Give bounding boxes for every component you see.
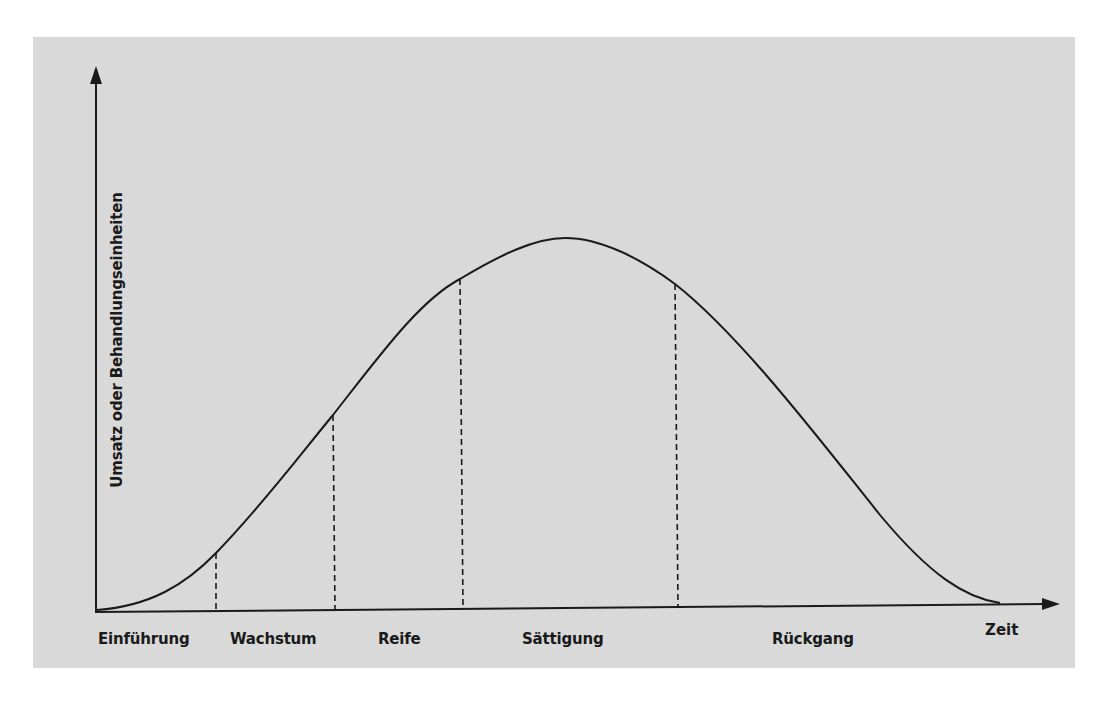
- x-axis: [95, 604, 1045, 612]
- x-axis-label: Zeit: [985, 621, 1018, 639]
- phase-label-rueckgang: Rückgang: [772, 630, 854, 648]
- phase-divider-4: [675, 284, 678, 606]
- y-axis-arrow-icon: [90, 66, 102, 84]
- phase-label-einfuehrung: Einführung: [98, 630, 189, 648]
- lifecycle-curve: [97, 238, 1000, 610]
- phase-divider-2: [333, 415, 335, 610]
- y-axis-label: Umsatz oder Behandlungseinheiten: [108, 192, 126, 487]
- phase-label-reife: Reife: [378, 630, 421, 648]
- phase-label-wachstum: Wachstum: [230, 630, 317, 648]
- x-axis-arrow-icon: [1042, 598, 1060, 610]
- lifecycle-diagram: [0, 0, 1114, 707]
- phase-divider-3: [460, 279, 463, 608]
- phase-label-saettigung: Sättigung: [522, 630, 603, 648]
